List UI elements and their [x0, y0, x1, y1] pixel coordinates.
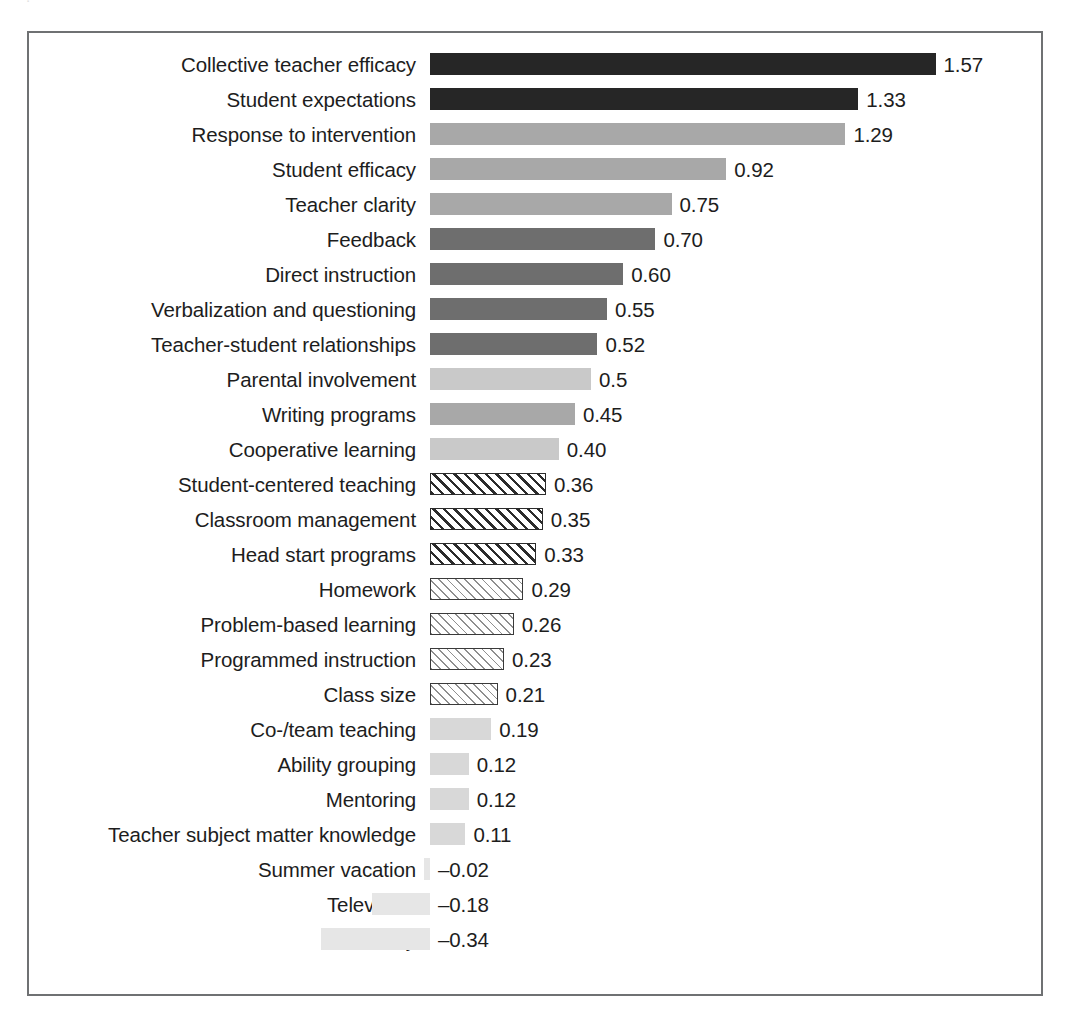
bar-rect: [430, 158, 726, 180]
bar-category-label: Co-/team teaching: [250, 712, 416, 747]
bar-row: Classroom management0.35: [29, 502, 1041, 537]
bar-rect: [430, 123, 845, 145]
bar-rect: [430, 368, 591, 390]
bar-rect: [430, 788, 469, 810]
bar-row: Student expectations1.33: [29, 82, 1041, 117]
caption-remnant-text: .: [26, 0, 30, 5]
bar-value-label: 0.26: [522, 607, 562, 642]
bar-value-label: 0.36: [554, 467, 594, 502]
bar-value-label: 0.70: [663, 222, 703, 257]
bar-value-label: 0.29: [531, 572, 571, 607]
bar-row: Mentoring0.12: [29, 782, 1041, 817]
cropped-caption-remnant: .: [0, 0, 1070, 16]
bar-rect: [430, 88, 858, 110]
bar-value-label: 0.21: [506, 677, 546, 712]
bar-rect: [430, 53, 936, 75]
bar-category-label: Student-centered teaching: [178, 467, 416, 502]
bar-value-label: 0.52: [605, 327, 645, 362]
bar-value-label: 0.12: [477, 782, 517, 817]
bar-rect: [321, 928, 430, 950]
bar-value-label: 0.40: [567, 432, 607, 467]
bar-rect: [372, 893, 430, 915]
bar-rect: [430, 613, 514, 635]
figure-frame: Collective teacher efficacy1.57Student e…: [27, 31, 1043, 996]
bar-value-label: 0.19: [499, 712, 539, 747]
bar-category-label: Class size: [324, 677, 416, 712]
bar-category-label: Problem-based learning: [201, 607, 416, 642]
bar-row: Summer vacation–0.02: [29, 852, 1041, 887]
bar-row: Writing programs0.45: [29, 397, 1041, 432]
bar-rect: [430, 508, 543, 530]
bar-value-label: 1.33: [866, 82, 906, 117]
bar-row: Student-centered teaching0.36: [29, 467, 1041, 502]
bar-value-label: 0.60: [631, 257, 671, 292]
bar-rect: [430, 753, 469, 775]
bar-rect: [430, 718, 491, 740]
bar-category-label: Ability grouping: [277, 747, 416, 782]
bar-row: Collective teacher efficacy1.57: [29, 47, 1041, 82]
bar-rect: [430, 578, 523, 600]
bar-row: Head start programs0.33: [29, 537, 1041, 572]
bar-value-label: 0.11: [473, 817, 511, 852]
bar-row: Direct instruction0.60: [29, 257, 1041, 292]
bar-rect: [430, 193, 672, 215]
bar-category-label: Writing programs: [262, 397, 416, 432]
bar-value-label: 0.55: [615, 292, 655, 327]
bar-category-label: Programmed instruction: [201, 642, 416, 677]
bar-value-label: –0.02: [438, 852, 489, 887]
bar-row: Homework0.29: [29, 572, 1041, 607]
bar-category-label: Teacher-student relationships: [151, 327, 416, 362]
bar-row: Cooperative learning0.40: [29, 432, 1041, 467]
bar-row: Mobility–0.34: [29, 922, 1041, 957]
bar-category-label: Teacher subject matter knowledge: [108, 817, 416, 852]
bar-row: Teacher subject matter knowledge0.11: [29, 817, 1041, 852]
bar-row: Ability grouping0.12: [29, 747, 1041, 782]
bar-category-label: Classroom management: [195, 502, 416, 537]
bar-rect: [424, 858, 430, 880]
bar-category-label: Summer vacation: [258, 852, 416, 887]
bar-category-label: Verbalization and questioning: [151, 292, 416, 327]
bar-value-label: 0.92: [734, 152, 774, 187]
bar-category-label: Student efficacy: [272, 152, 416, 187]
bar-value-label: 0.45: [583, 397, 623, 432]
bar-rect: [430, 228, 655, 250]
bar-value-label: 1.29: [853, 117, 893, 152]
bar-category-label: Parental involvement: [227, 362, 416, 397]
bar-row: Television–0.18: [29, 887, 1041, 922]
bar-rect: [430, 683, 498, 705]
bar-row: Response to intervention1.29: [29, 117, 1041, 152]
bar-row: Verbalization and questioning0.55: [29, 292, 1041, 327]
bar-category-label: Response to intervention: [192, 117, 416, 152]
bar-value-label: –0.34: [438, 922, 489, 957]
bar-row: Teacher clarity0.75: [29, 187, 1041, 222]
bar-value-label: –0.18: [438, 887, 489, 922]
horizontal-bar-chart: Collective teacher efficacy1.57Student e…: [29, 33, 1041, 994]
bar-value-label: 0.75: [680, 187, 720, 222]
bar-rect: [430, 298, 607, 320]
bar-rect: [430, 403, 575, 425]
bar-category-label: Homework: [319, 572, 416, 607]
bar-rect: [430, 823, 465, 845]
bar-value-label: 0.35: [551, 502, 591, 537]
bar-rect: [430, 543, 536, 565]
bar-value-label: 0.12: [477, 747, 517, 782]
bar-category-label: Student expectations: [227, 82, 416, 117]
bar-rect: [430, 473, 546, 495]
bar-row: Programmed instruction0.23: [29, 642, 1041, 677]
bar-rect: [430, 648, 504, 670]
bar-category-label: Cooperative learning: [229, 432, 416, 467]
bar-value-label: 1.57: [944, 47, 984, 82]
bar-rect: [430, 333, 597, 355]
bar-category-label: Head start programs: [231, 537, 416, 572]
bar-value-label: 0.5: [599, 362, 627, 397]
bar-rect: [430, 263, 623, 285]
bar-category-label: Mentoring: [326, 782, 416, 817]
bar-value-label: 0.23: [512, 642, 552, 677]
bar-row: Feedback0.70: [29, 222, 1041, 257]
bar-category-label: Teacher clarity: [285, 187, 416, 222]
bar-row: Class size0.21: [29, 677, 1041, 712]
bar-rect: [430, 438, 559, 460]
bar-row: Parental involvement0.5: [29, 362, 1041, 397]
bar-value-label: 0.33: [544, 537, 584, 572]
bar-row: Student efficacy0.92: [29, 152, 1041, 187]
